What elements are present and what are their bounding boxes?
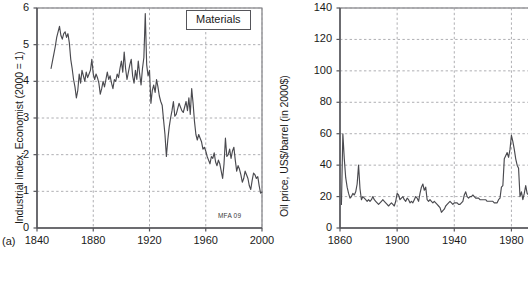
panel-letter-a: (a) [2, 235, 15, 247]
figure-root: Industrial index, Economist (2000 = 1) (… [0, 0, 528, 283]
data-series-line-0 [341, 134, 528, 213]
y-tick-label: 140 [312, 1, 332, 13]
y-tick-label: 20 [312, 190, 332, 202]
y-axis-title-energy: Oil price, US$/barrel (in 2000$) [278, 75, 290, 217]
y-tick-label: 0 [312, 221, 332, 233]
y-tick-label: 4 [19, 74, 29, 86]
y-tick-label: 120 [312, 32, 332, 44]
y-tick-label: 40 [312, 158, 332, 170]
x-tick-label: 1920 [130, 234, 170, 246]
x-tick-label: 1840 [17, 234, 57, 246]
y-tick-label: 6 [19, 1, 29, 13]
y-tick-label: 2 [19, 148, 29, 160]
y-tick-label: 80 [312, 95, 332, 107]
chart-panel-materials: Industrial index, Economist (2000 = 1) (… [0, 0, 264, 283]
credit-text-mfa: MFA 09 [218, 212, 241, 219]
x-tick-label: 1980 [491, 234, 528, 246]
y-tick-label: 60 [312, 127, 332, 139]
y-tick-label: 0 [19, 221, 29, 233]
callout-materials: Materials [186, 10, 251, 30]
data-series-line-0 [51, 14, 262, 194]
x-tick-label: 1960 [186, 234, 226, 246]
x-tick-label: 1900 [377, 234, 417, 246]
x-tick-label: 1860 [320, 234, 360, 246]
y-tick-label: 3 [19, 111, 29, 123]
y-tick-label: 5 [19, 38, 29, 50]
chart-panel-energy: Oil price, US$/barrel (in 2000$) (b) Ene… [264, 0, 528, 283]
y-tick-label: 1 [19, 184, 29, 196]
y-tick-label: 100 [312, 64, 332, 76]
plot-frame [340, 8, 528, 228]
x-tick-label: 1940 [434, 234, 474, 246]
x-tick-label: 1880 [73, 234, 113, 246]
